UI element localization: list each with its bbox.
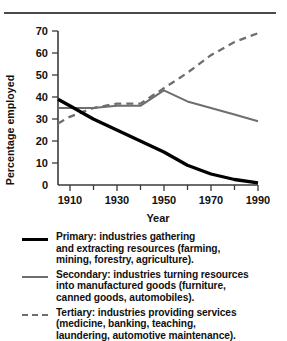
chart-plot-area: 70 60 50 40 30 20 10 0 (0, 18, 287, 228)
y-tick-label-60: 60 (36, 47, 48, 59)
legend-secondary-line-1: Secondary: industries turning resources (56, 269, 283, 281)
x-tick-label-1990: 1990 (246, 194, 270, 206)
legend-tertiary-line-2: (medicine, banking, teaching, (56, 318, 283, 330)
y-axis-title-label: Percentage employed (4, 75, 16, 185)
x-axis-ticks (70, 185, 258, 191)
x-tick-label-1970: 1970 (199, 194, 223, 206)
legend-item-tertiary: Tertiary: industries providing services … (0, 307, 287, 341)
y-tick-label-10: 10 (36, 157, 48, 169)
y-tick-label-40: 40 (36, 91, 48, 103)
tertiary-line-swatch (22, 314, 48, 316)
y-axis-title: Percentage employed (3, 70, 17, 190)
x-axis-tick-labels: 1910 1930 1950 1970 1990 (58, 194, 270, 206)
legend-tertiary-line-1: Tertiary: industries providing services (56, 307, 283, 319)
legend-primary-line-3: mining, forestry, agriculture). (56, 254, 283, 266)
primary-line-key (22, 231, 56, 245)
primary-line-swatch (22, 238, 48, 241)
x-tick-label-1930: 1930 (105, 194, 129, 206)
x-tick-label-1910: 1910 (58, 194, 82, 206)
y-tick-label-70: 70 (36, 25, 48, 37)
secondary-line-key (22, 269, 56, 283)
line-chart: Percentage employed 70 60 (0, 18, 287, 228)
legend-secondary-line-2: into manufactured goods (furniture, (56, 280, 283, 292)
legend-primary-line-1: Primary: industries gathering (56, 231, 283, 243)
chart-legend: Primary: industries gathering and extrac… (0, 231, 287, 341)
legend-primary-line-2: and extracting resources (farming, (56, 243, 283, 255)
y-axis-tick-labels: 70 60 50 40 30 20 10 0 (36, 25, 48, 191)
secondary-line-swatch (22, 276, 48, 278)
y-tick-label-20: 20 (36, 135, 48, 147)
x-axis-title: Year (146, 212, 170, 224)
tertiary-line-key (22, 307, 56, 321)
legend-item-secondary: Secondary: industries turning resources … (0, 269, 287, 304)
horizontal-divider (4, 12, 276, 14)
y-axis-ticks (52, 31, 58, 163)
y-tick-label-30: 30 (36, 113, 48, 125)
legend-tertiary-line-3: laundering, automotive maintenance). (56, 330, 283, 341)
legend-text-secondary: Secondary: industries turning resources … (56, 269, 287, 304)
series-line-tertiary (58, 33, 258, 123)
legend-text-tertiary: Tertiary: industries providing services … (56, 307, 287, 341)
legend-secondary-line-3: canned goods, automobiles). (56, 292, 283, 304)
legend-text-primary: Primary: industries gathering and extrac… (56, 231, 287, 266)
figure-page: Percentage employed 70 60 (0, 0, 287, 341)
y-tick-label-50: 50 (36, 69, 48, 81)
legend-item-primary: Primary: industries gathering and extrac… (0, 231, 287, 266)
x-tick-label-1950: 1950 (152, 194, 176, 206)
series-paths (58, 33, 258, 183)
y-tick-label-0: 0 (42, 179, 48, 191)
cropped-caption-above-rule (58, 0, 258, 8)
